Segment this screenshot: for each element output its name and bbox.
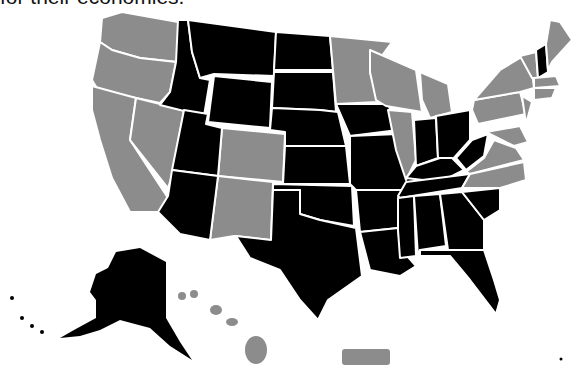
state-north-dakota[interactable] [274,32,333,70]
state-alaska[interactable] [60,248,192,360]
state-iowa[interactable] [336,104,398,136]
state-connecticut-rhode-island[interactable] [534,88,556,100]
state-montana[interactable] [188,20,276,78]
state-hawaii-kauai[interactable] [178,292,186,300]
state-new-jersey[interactable] [522,96,532,124]
state-colorado[interactable] [218,128,285,182]
state-wyoming[interactable] [208,76,272,128]
state-florida[interactable] [420,250,500,314]
territory-puerto-rico[interactable] [342,349,390,365]
alaska-aleutian-island [10,296,14,300]
state-new-mexico[interactable] [210,176,273,240]
state-mississippi[interactable] [398,196,416,258]
alaska-aleutian-island [30,324,34,328]
state-michigan[interactable] [420,72,452,118]
territory-us-virgin-islands [560,358,563,361]
state-south-dakota[interactable] [272,72,336,112]
state-hawaii-big-island[interactable] [245,336,267,364]
state-kansas[interactable] [283,146,350,184]
state-hawaii-maui[interactable] [210,305,222,315]
state-indiana[interactable] [414,118,438,166]
state-massachusetts[interactable] [534,76,560,88]
state-maine[interactable] [546,20,572,70]
state-hawaii-oahu[interactable] [190,290,198,298]
alaska-aleutian-island [40,330,44,334]
state-hawaii-molokai[interactable] [226,318,238,326]
alaska-aleutian-island [20,316,24,320]
us-map [0,0,583,373]
state-arkansas[interactable] [356,190,404,232]
